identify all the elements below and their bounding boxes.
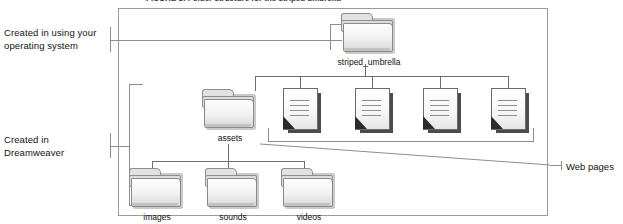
folder-label-assets: assets	[196, 133, 264, 143]
folder-assets[interactable]: assets	[202, 89, 258, 131]
callout-web-pages: Web pages	[566, 161, 614, 173]
figure-caption: FIGURE 3: Folder structure for the strip…	[146, 0, 466, 4]
callout-dw-line2: Dreamweaver	[4, 147, 108, 160]
callout-operating-system: Created in using your operating system	[4, 27, 108, 52]
document-text-line	[498, 110, 517, 111]
tree-drop-page-2	[372, 76, 373, 88]
folder-striped-umbrella[interactable]: striped_umbrella	[341, 13, 397, 55]
document-text-line	[362, 105, 381, 106]
folder-lip	[205, 124, 251, 127]
document-text-line	[290, 110, 309, 111]
callout-dw-leader	[110, 146, 130, 147]
document-text-line	[362, 110, 381, 111]
folder-videos[interactable]: videos	[281, 168, 337, 210]
tree-drop-page-1	[300, 76, 301, 88]
callout-dw-line1: Created in	[4, 134, 108, 147]
root-callout-tick-top	[330, 24, 341, 25]
tree-drop-page-4	[508, 76, 509, 88]
document-text-line	[290, 100, 309, 101]
document-text-line	[498, 115, 517, 116]
document-text-line	[498, 100, 517, 101]
callout-dreamweaver: Created in Dreamweaver	[4, 134, 108, 159]
figure-canvas: FIGURE 3: Folder structure for the strip…	[0, 0, 623, 224]
web-pages-leader-tick	[561, 161, 562, 170]
root-callout-tick	[330, 24, 331, 50]
folder-sounds[interactable]: sounds	[205, 168, 261, 210]
tree-trunk	[365, 64, 366, 76]
document-text-line	[430, 110, 449, 111]
assets-trunk	[228, 144, 229, 161]
document-text-line	[290, 115, 309, 116]
callout-os-line2: operating system	[4, 40, 108, 53]
document-text-line	[430, 115, 449, 116]
document-text-line	[290, 105, 309, 106]
folder-label-sounds: sounds	[199, 212, 267, 222]
document-text-line	[498, 105, 517, 106]
document-text-line	[430, 100, 449, 101]
callout-os-leader	[110, 40, 342, 41]
tree-drop-page-3	[440, 76, 441, 88]
folder-lip	[208, 203, 254, 206]
folder-images[interactable]: images	[129, 168, 185, 210]
folder-lip	[284, 203, 330, 206]
folder-label-images: images	[123, 212, 191, 222]
dreamweaver-bracket-top	[129, 84, 143, 85]
web-pages-leader	[260, 136, 570, 172]
folder-lip	[344, 48, 390, 51]
folder-label-videos: videos	[275, 212, 343, 222]
callout-os-line1: Created in using your	[4, 27, 108, 40]
document-text-line	[362, 100, 381, 101]
document-text-line	[362, 115, 381, 116]
folder-lip	[132, 203, 178, 206]
folder-label-striped-umbrella: striped_umbrella	[335, 57, 403, 67]
document-text-line	[430, 105, 449, 106]
tree-bus	[255, 76, 508, 77]
